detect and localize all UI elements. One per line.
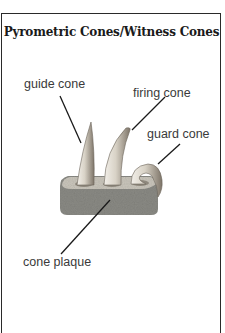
guard-cone-leader [158,144,180,164]
firing-cone-leader [132,97,165,130]
guide-cone-label: guide cone [24,78,85,91]
cone-plaque-label: cone plaque [23,256,91,269]
firing-cone-label: firing cone [133,87,191,100]
guard-cone-label: guard cone [147,128,210,141]
guide-cone-shape [77,122,94,185]
guide-cone-leader [60,96,81,143]
